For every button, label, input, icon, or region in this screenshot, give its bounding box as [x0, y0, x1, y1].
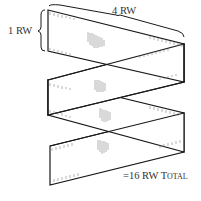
height-label: 1 RW — [8, 25, 32, 36]
height-brace — [38, 10, 45, 51]
total-label-prefix: =16 RW T — [123, 170, 168, 181]
total-label: =16 RW TOTAL — [123, 170, 188, 181]
width-label: 4 RW — [112, 5, 136, 16]
folded-ribbon-diagram: 4 RW 1 RW =16 RW TOTAL — [0, 0, 201, 201]
ribbon-drawing: 4 RW 1 RW =16 RW TOTAL — [0, 0, 201, 201]
total-label-suffix: OTAL — [167, 172, 188, 181]
